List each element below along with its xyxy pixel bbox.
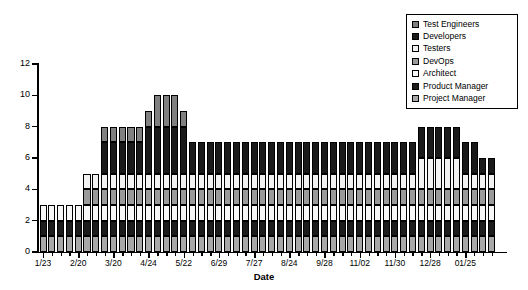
bar-segment bbox=[145, 111, 152, 127]
x-tick-minor bbox=[61, 252, 62, 256]
bar-segment bbox=[339, 236, 346, 252]
legend-item[interactable]: Developers bbox=[412, 30, 513, 42]
x-tick-minor bbox=[483, 252, 484, 256]
bar-segment bbox=[488, 158, 495, 174]
bar-column bbox=[119, 127, 126, 252]
y-tick-label: 12 bbox=[0, 59, 30, 68]
bar-segment bbox=[418, 158, 425, 189]
bar-segment bbox=[418, 189, 425, 205]
bar-segment bbox=[374, 236, 381, 252]
legend-item-label: Testers bbox=[423, 44, 450, 53]
bar-segment bbox=[286, 174, 293, 190]
legend-item-label: Developers bbox=[423, 32, 466, 41]
bar-segment bbox=[154, 236, 161, 252]
bar-segment bbox=[171, 127, 178, 174]
bar-segment bbox=[427, 158, 434, 189]
bar-segment bbox=[391, 221, 398, 237]
bar-segment bbox=[154, 127, 161, 174]
legend-item[interactable]: DevOps bbox=[412, 55, 513, 67]
x-tick-label: 1/23 bbox=[35, 258, 52, 268]
bar-segment bbox=[180, 174, 187, 190]
bar-column bbox=[391, 142, 398, 252]
bar-segment bbox=[224, 174, 231, 190]
bar-segment bbox=[383, 221, 390, 237]
bar-segment bbox=[233, 236, 240, 252]
bar-segment bbox=[207, 236, 214, 252]
bar-segment bbox=[356, 189, 363, 205]
bar-segment bbox=[479, 221, 486, 237]
legend-item[interactable]: Project Manager bbox=[412, 92, 513, 104]
bar-segment bbox=[259, 174, 266, 190]
bar-segment bbox=[321, 189, 328, 205]
bar-segment bbox=[136, 127, 143, 143]
bar-column bbox=[312, 142, 319, 252]
bar-column bbox=[356, 142, 363, 252]
bar-segment bbox=[92, 236, 99, 252]
bar-segment bbox=[119, 221, 126, 237]
bar-segment bbox=[444, 236, 451, 252]
bar-segment bbox=[427, 236, 434, 252]
bar-segment bbox=[427, 221, 434, 237]
bar-segment bbox=[427, 189, 434, 205]
bar-segment bbox=[171, 95, 178, 126]
bar-segment bbox=[383, 189, 390, 205]
bar-segment bbox=[259, 236, 266, 252]
bar-segment bbox=[277, 236, 284, 252]
bar-segment bbox=[435, 205, 442, 221]
bar-segment bbox=[330, 189, 337, 205]
bar-segment bbox=[479, 189, 486, 205]
bar-segment bbox=[312, 174, 319, 190]
bar-segment bbox=[295, 142, 302, 173]
bar-segment bbox=[233, 205, 240, 221]
bar-segment bbox=[198, 205, 205, 221]
bar-segment bbox=[145, 236, 152, 252]
bar-segment bbox=[215, 236, 222, 252]
legend-item[interactable]: Testers bbox=[412, 43, 513, 55]
staffing-stacked-bar-chart: 024681012 Staffing 1/232/203/204/245/226… bbox=[0, 0, 528, 290]
bar-segment bbox=[277, 174, 284, 190]
bar-segment bbox=[136, 189, 143, 205]
bar-column bbox=[400, 142, 407, 252]
bar-segment bbox=[303, 142, 310, 173]
bar-segment bbox=[189, 189, 196, 205]
bar-segment bbox=[215, 174, 222, 190]
bar-segment bbox=[224, 205, 231, 221]
bar-segment bbox=[391, 142, 398, 173]
bar-segment bbox=[163, 205, 170, 221]
bar-column bbox=[409, 142, 416, 252]
bar-segment bbox=[101, 189, 108, 205]
legend-item[interactable]: Architect bbox=[412, 68, 513, 80]
x-tick-minor bbox=[193, 252, 194, 256]
bar-segment bbox=[312, 236, 319, 252]
bar-column bbox=[207, 142, 214, 252]
bar-segment bbox=[471, 142, 478, 173]
bar-segment bbox=[286, 236, 293, 252]
bar-segment bbox=[242, 189, 249, 205]
bar-segment bbox=[321, 142, 328, 173]
bar-segment bbox=[339, 205, 346, 221]
bar-segment bbox=[57, 205, 64, 221]
bar-segment bbox=[189, 236, 196, 252]
bar-segment bbox=[453, 221, 460, 237]
legend-item[interactable]: Test Engineers bbox=[412, 18, 513, 30]
x-tick-label: 3/20 bbox=[105, 258, 122, 268]
bar-segment bbox=[347, 142, 354, 173]
legend-item[interactable]: Product Manager bbox=[412, 80, 513, 92]
bar-segment bbox=[277, 221, 284, 237]
bar-segment bbox=[462, 189, 469, 205]
x-tick-minor bbox=[377, 252, 378, 256]
bar-segment bbox=[75, 205, 82, 221]
bar-segment bbox=[330, 205, 337, 221]
bar-segment bbox=[66, 236, 73, 252]
bar-segment bbox=[145, 174, 152, 190]
legend-swatch-icon bbox=[412, 70, 419, 77]
x-tick-minor bbox=[237, 252, 238, 256]
bar-segment bbox=[488, 221, 495, 237]
bar-segment bbox=[391, 205, 398, 221]
bar-segment bbox=[391, 174, 398, 190]
bar-segment bbox=[321, 174, 328, 190]
x-tick-minor bbox=[404, 252, 405, 256]
bar-column bbox=[303, 142, 310, 252]
bar-segment bbox=[101, 236, 108, 252]
y-tick-10 bbox=[32, 95, 37, 97]
